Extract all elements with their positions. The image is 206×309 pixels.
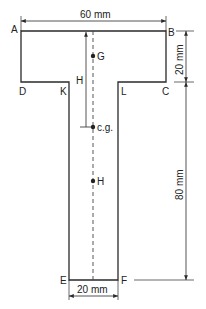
h-distance-label: H	[76, 75, 83, 86]
vertex-c-label: C	[162, 86, 169, 97]
vertex-d-label: D	[19, 86, 26, 97]
dim-label-flange-depth: 20 mm	[174, 44, 185, 75]
point-g	[91, 54, 95, 58]
vertex-b-label: B	[168, 27, 175, 38]
point-cg-label: c.g.	[97, 122, 113, 133]
dim-label-web-height: 80 mm	[174, 169, 185, 200]
vertex-a-label: A	[11, 24, 18, 35]
vertex-l-label: L	[121, 86, 127, 97]
dim-label-web-width: 20 mm	[77, 284, 108, 295]
t-section-outline	[21, 31, 166, 280]
point-h-label: H	[97, 176, 104, 187]
vertex-k-label: K	[60, 86, 67, 97]
dim-label-flange-width: 60 mm	[80, 9, 111, 20]
vertex-f-label: F	[121, 275, 127, 286]
t-section-diagram: 60 mm 20 mm 80 mm 20 mm H G c.g. H A B D…	[0, 0, 206, 309]
point-h	[91, 179, 95, 183]
point-cg	[91, 125, 95, 129]
vertex-e-label: E	[60, 275, 67, 286]
point-g-label: G	[97, 51, 105, 62]
